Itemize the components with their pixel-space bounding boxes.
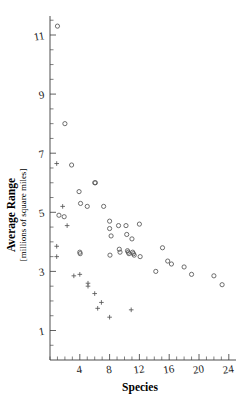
data-point-circle <box>108 226 112 230</box>
data-point-plus <box>54 161 59 166</box>
axes-group <box>50 16 236 360</box>
chart-canvas: 1357911 4812162024 Average Range [millio… <box>0 0 237 401</box>
data-point-plus <box>107 315 112 320</box>
x-tick-label: 24 <box>222 362 235 375</box>
data-point-circle <box>77 190 81 194</box>
x-tick-label: 4 <box>76 363 84 376</box>
data-point-plus <box>54 254 59 259</box>
data-point-circle <box>85 204 89 208</box>
data-point-circle <box>117 247 121 251</box>
data-point-circle <box>102 204 106 208</box>
data-point-circle <box>169 262 173 266</box>
x-tick-label: 12 <box>133 362 146 375</box>
data-point-circle <box>125 232 129 236</box>
data-point-plus <box>65 223 70 228</box>
data-point-circle <box>62 215 66 219</box>
data-point-circle <box>138 255 142 259</box>
data-point-plus <box>72 274 77 279</box>
y-tick-label: 5 <box>38 206 46 219</box>
data-point-circle <box>182 265 186 269</box>
y-axis-tick-labels: 1357911 <box>33 29 46 337</box>
data-point-plus <box>60 204 65 209</box>
scatter-plot-figure: 1357911 4812162024 Average Range [millio… <box>0 0 237 401</box>
data-point-circle <box>166 259 170 263</box>
y-tick-label: 7 <box>38 147 46 160</box>
data-point-plus <box>129 308 134 313</box>
data-point-plus <box>99 300 104 305</box>
data-point-plus <box>86 284 91 289</box>
data-point-circle <box>189 272 193 276</box>
data-point-circle <box>130 237 134 241</box>
data-point-circle <box>124 224 128 228</box>
y-tick-label: 9 <box>38 88 46 101</box>
data-point-circle <box>55 24 59 28</box>
data-point-circle <box>70 163 74 167</box>
x-axis-tick-labels: 4812162024 <box>76 362 235 375</box>
data-point-circle <box>63 122 67 126</box>
data-point-circle <box>154 269 158 273</box>
data-point-circle <box>108 219 112 223</box>
y-axis-title: Average Range <box>5 178 18 252</box>
data-point-circle <box>57 213 61 217</box>
y-axis-ticks <box>50 20 56 345</box>
y-tick-label: 11 <box>33 29 46 43</box>
x-tick-label: 20 <box>192 362 205 375</box>
data-point-plus <box>78 272 83 277</box>
data-point-circle <box>109 234 113 238</box>
y-tick-label: 1 <box>38 325 46 338</box>
data-point-circle <box>220 283 224 287</box>
x-tick-label: 8 <box>105 363 113 376</box>
data-point-circle <box>108 253 112 257</box>
data-point-plus <box>95 306 100 311</box>
series-circle-markers <box>55 24 224 287</box>
data-point-plus <box>92 291 97 296</box>
y-tick-label: 3 <box>38 265 46 278</box>
x-axis-ticks <box>50 354 229 360</box>
data-point-circle <box>78 201 82 205</box>
x-axis-title: Species <box>122 381 158 394</box>
data-point-circle <box>137 222 141 226</box>
y-axis-units-label: [millions of square miles] <box>18 169 28 262</box>
data-point-circle <box>118 250 122 254</box>
data-point-circle <box>116 224 120 228</box>
x-tick-label: 16 <box>162 362 175 375</box>
data-point-circle <box>212 274 216 278</box>
data-point-circle <box>160 246 164 250</box>
data-point-plus <box>54 244 59 249</box>
